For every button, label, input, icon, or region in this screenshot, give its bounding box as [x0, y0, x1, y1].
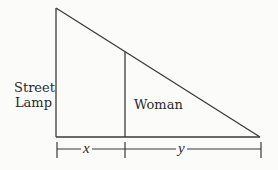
street-lamp-label-line2: Lamp — [14, 95, 52, 110]
woman-label: Woman — [134, 97, 183, 112]
shadow-hypotenuse — [56, 8, 260, 137]
street-lamp-label: Street Lamp — [14, 80, 52, 110]
x-dimension-label: x — [81, 141, 92, 156]
y-dimension-label: y — [176, 141, 187, 156]
street-lamp-label-line1: Street — [14, 80, 52, 95]
